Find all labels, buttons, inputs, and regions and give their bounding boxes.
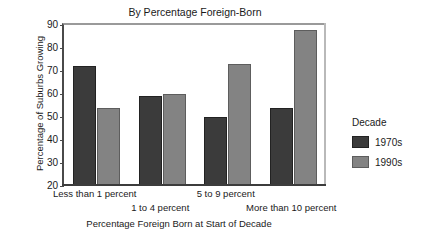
y-tick-label: 80 bbox=[47, 43, 58, 53]
y-tick-label: 90 bbox=[47, 20, 58, 30]
chart-title: By Percentage Foreign-Born bbox=[60, 6, 330, 18]
y-tick-label: 70 bbox=[47, 66, 58, 76]
y-tick-mark bbox=[60, 117, 64, 118]
bar-1970s-2 bbox=[204, 117, 227, 186]
legend-entries: 1970s1990s bbox=[352, 136, 422, 168]
legend-item-1970s: 1970s bbox=[352, 136, 422, 148]
legend-label-1990s: 1990s bbox=[375, 157, 402, 168]
legend-title: Decade bbox=[352, 117, 422, 129]
y-tick-mark bbox=[60, 94, 64, 95]
y-tick-mark bbox=[60, 163, 64, 164]
legend-item-1990s: 1990s bbox=[352, 156, 422, 168]
x-category-label-2: 5 to 9 percent bbox=[197, 188, 255, 199]
legend-label-1970s: 1970s bbox=[375, 137, 402, 148]
bar-1990s-3 bbox=[294, 30, 317, 186]
y-tick-mark bbox=[60, 48, 64, 49]
y-tick-label: 40 bbox=[47, 135, 58, 145]
bar-1990s-2 bbox=[228, 64, 251, 186]
bar-1990s-0 bbox=[97, 108, 120, 186]
y-tick-label: 50 bbox=[47, 112, 58, 122]
bar-1970s-3 bbox=[270, 108, 293, 186]
plot-right-edge bbox=[324, 23, 326, 184]
y-tick-label: 60 bbox=[47, 89, 58, 99]
bar-1970s-1 bbox=[139, 96, 162, 186]
bar-1970s-0 bbox=[73, 66, 96, 186]
y-tick-mark bbox=[60, 186, 64, 187]
x-category-label-3: More than 10 percent bbox=[246, 202, 336, 213]
plot-area: 2030405060708090 bbox=[62, 23, 326, 186]
y-tick-mark bbox=[60, 71, 64, 72]
x-category-label-0: Less than 1 percent bbox=[53, 188, 136, 199]
x-category-label-1: 1 to 4 percent bbox=[131, 202, 189, 213]
y-tick-mark bbox=[60, 140, 64, 141]
y-tick-mark bbox=[60, 25, 64, 26]
x-axis-line bbox=[62, 184, 326, 186]
chart-legend: Decade 1970s1990s bbox=[352, 117, 422, 176]
legend-swatch-1990s bbox=[352, 156, 369, 168]
bar-1990s-1 bbox=[163, 94, 186, 186]
x-axis-title: Percentage Foreign Born at Start of Deca… bbox=[34, 218, 324, 229]
legend-swatch-1970s bbox=[352, 136, 369, 148]
y-axis-title: Percentage of Suburbs Growing bbox=[34, 9, 45, 199]
y-tick-label: 30 bbox=[47, 158, 58, 168]
chart-figure: By Percentage Foreign-Born Percentage of… bbox=[0, 0, 422, 246]
